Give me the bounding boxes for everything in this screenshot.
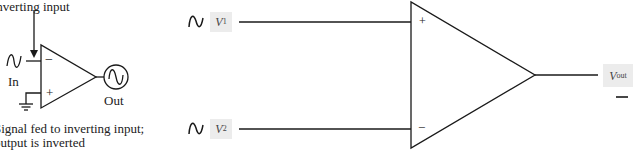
v2-subscript: 2 [223,125,227,133]
arrow-down-icon [30,50,38,58]
out-label: Out [104,94,124,107]
ground-icon [19,104,33,110]
v2-sine-icon [189,123,203,134]
v1-label: V1 [210,12,232,32]
vout-symbol: V [609,70,616,82]
output-sine-icon [109,70,123,85]
caption-line-2: output is inverted [0,136,85,149]
inverting-input-label: Inverting input [0,0,70,13]
vout-label: Vout [603,64,633,87]
vout-subscript: out [617,72,627,80]
non-inverting-input-lead [26,93,41,104]
v2-label: V2 [210,119,232,139]
v2-symbol: V [215,123,222,135]
plus-sign: + [46,86,53,99]
minus-sign-large: − [418,121,425,134]
differential-op-amp [189,2,628,148]
v1-subscript: 1 [223,18,227,26]
plus-sign-large: + [419,15,426,27]
minus-sign: − [45,53,53,67]
in-label: In [8,75,19,88]
op-amp-triangle-large [411,2,535,148]
v1-sine-icon [189,16,203,27]
diagram-canvas [0,0,633,162]
caption-line-1: Signal fed to inverting input; [0,122,144,135]
input-sine-icon [7,55,21,67]
v1-symbol: V [215,16,222,28]
